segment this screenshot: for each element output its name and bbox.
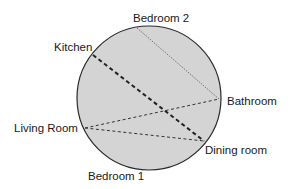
label-bedroom-1: Bedroom 1 [88,171,144,183]
label-living-room: Living Room [14,123,78,135]
label-kitchen: Kitchen [54,42,92,54]
label-dining-room: Dining room [205,145,267,157]
label-bedroom-2: Bedroom 2 [133,13,189,25]
label-bathroom: Bathroom [227,96,277,108]
